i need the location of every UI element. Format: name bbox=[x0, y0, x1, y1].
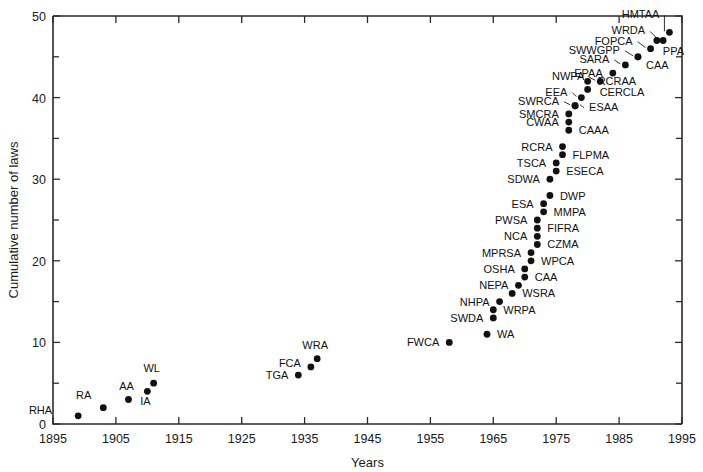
data-point-label: WRPA bbox=[503, 304, 536, 316]
data-point-label: RHA bbox=[29, 404, 53, 416]
data-point bbox=[496, 298, 503, 305]
y-axis-title: Cumulative number of laws bbox=[6, 141, 21, 298]
data-points bbox=[75, 29, 673, 419]
data-point bbox=[534, 241, 541, 248]
data-point bbox=[490, 315, 497, 322]
data-point-label: WRDA bbox=[612, 24, 646, 36]
data-point bbox=[295, 372, 302, 379]
data-point-label: WA bbox=[497, 328, 515, 340]
chart-figure: 1895190519151925193519451955196519751985… bbox=[0, 0, 703, 472]
svg-text:1895: 1895 bbox=[39, 432, 67, 446]
data-point-label: CZMA bbox=[547, 238, 579, 250]
data-point-label: FWCA bbox=[407, 336, 440, 348]
data-point bbox=[150, 380, 157, 387]
data-point-label: FLPMA bbox=[572, 149, 609, 161]
data-point bbox=[653, 37, 660, 44]
data-point-label: ESAA bbox=[589, 101, 619, 113]
data-point bbox=[666, 29, 673, 36]
data-point-label: OSHA bbox=[484, 263, 516, 275]
data-point bbox=[521, 266, 528, 273]
data-point-label: IA bbox=[140, 395, 151, 407]
data-point bbox=[307, 363, 314, 370]
data-point-label: SMCRA bbox=[519, 108, 559, 120]
svg-text:1995: 1995 bbox=[668, 432, 696, 446]
data-point bbox=[446, 339, 453, 346]
svg-text:0: 0 bbox=[39, 418, 46, 432]
data-point-label: HMTAA bbox=[622, 8, 660, 20]
data-point-label: RCRAA bbox=[598, 75, 637, 87]
data-point-label: EPAA bbox=[574, 67, 603, 79]
data-point bbox=[484, 331, 491, 338]
data-point bbox=[521, 274, 528, 281]
data-point-label: ESECA bbox=[566, 165, 604, 177]
data-point-label: WPCA bbox=[541, 255, 575, 267]
data-point bbox=[534, 233, 541, 240]
data-point-labels: RHARAAAIAWLTGAFCAWRAFWCAWASWDAWRPANHPAWS… bbox=[29, 8, 685, 416]
data-point bbox=[559, 143, 566, 150]
data-point bbox=[553, 159, 560, 166]
data-point-label: WL bbox=[143, 362, 160, 374]
data-point-label: NHPA bbox=[460, 296, 490, 308]
data-point bbox=[314, 355, 321, 362]
data-point-label: RCRA bbox=[521, 141, 553, 153]
data-point-label: TGA bbox=[266, 369, 289, 381]
data-point-label: WRA bbox=[302, 339, 328, 351]
data-point bbox=[75, 412, 82, 419]
data-point-label: RA bbox=[76, 389, 92, 401]
svg-text:1985: 1985 bbox=[605, 432, 633, 446]
svg-text:50: 50 bbox=[32, 10, 46, 24]
data-point bbox=[528, 249, 535, 256]
svg-text:1975: 1975 bbox=[542, 432, 570, 446]
data-point bbox=[534, 217, 541, 224]
svg-text:40: 40 bbox=[32, 92, 46, 106]
scatter-plot: 1895190519151925193519451955196519751985… bbox=[0, 0, 703, 472]
svg-text:1955: 1955 bbox=[416, 432, 444, 446]
svg-text:1935: 1935 bbox=[291, 432, 319, 446]
data-point-label: CERCLA bbox=[600, 86, 645, 98]
data-point-label: CAAA bbox=[579, 124, 610, 136]
data-point-label: PPA bbox=[663, 45, 685, 57]
svg-text:1915: 1915 bbox=[165, 432, 193, 446]
data-point bbox=[622, 62, 629, 69]
data-point-label: DWP bbox=[560, 190, 586, 202]
svg-text:1965: 1965 bbox=[479, 432, 507, 446]
data-point-label: TSCA bbox=[517, 157, 547, 169]
data-point bbox=[578, 94, 585, 101]
data-point bbox=[540, 208, 547, 215]
data-point bbox=[125, 396, 132, 403]
svg-text:1945: 1945 bbox=[354, 432, 382, 446]
data-point bbox=[572, 102, 579, 109]
svg-text:30: 30 bbox=[32, 173, 46, 187]
data-point bbox=[635, 53, 642, 60]
data-point-label: FCA bbox=[279, 357, 302, 369]
data-point-label: AA bbox=[119, 380, 134, 392]
data-point bbox=[559, 151, 566, 158]
svg-text:10: 10 bbox=[32, 336, 46, 350]
data-point bbox=[515, 282, 522, 289]
data-point bbox=[660, 37, 667, 44]
svg-text:20: 20 bbox=[32, 255, 46, 269]
data-point-label: WSRA bbox=[522, 287, 556, 299]
x-axis-title: Years bbox=[351, 455, 384, 470]
data-point bbox=[528, 257, 535, 264]
data-point-label: FIFRA bbox=[547, 222, 579, 234]
data-point bbox=[565, 119, 572, 126]
data-point bbox=[144, 388, 151, 395]
data-point-label: CAA bbox=[646, 59, 669, 71]
data-point-label: NCA bbox=[504, 230, 528, 242]
data-point-label: MPRSA bbox=[482, 247, 522, 259]
svg-text:1925: 1925 bbox=[228, 432, 256, 446]
data-point-label: NEPA bbox=[479, 279, 509, 291]
data-point bbox=[553, 168, 560, 175]
data-point-label: SDWA bbox=[507, 173, 540, 185]
data-point bbox=[534, 225, 541, 232]
data-point-label: EEA bbox=[545, 86, 568, 98]
data-point bbox=[565, 127, 572, 134]
data-point-label: CAA bbox=[535, 271, 558, 283]
data-point bbox=[584, 86, 591, 93]
data-point bbox=[540, 200, 547, 207]
data-point bbox=[509, 290, 516, 297]
data-point bbox=[100, 404, 107, 411]
data-point-label: MMPA bbox=[554, 206, 587, 218]
data-point-label: PWSA bbox=[495, 214, 528, 226]
